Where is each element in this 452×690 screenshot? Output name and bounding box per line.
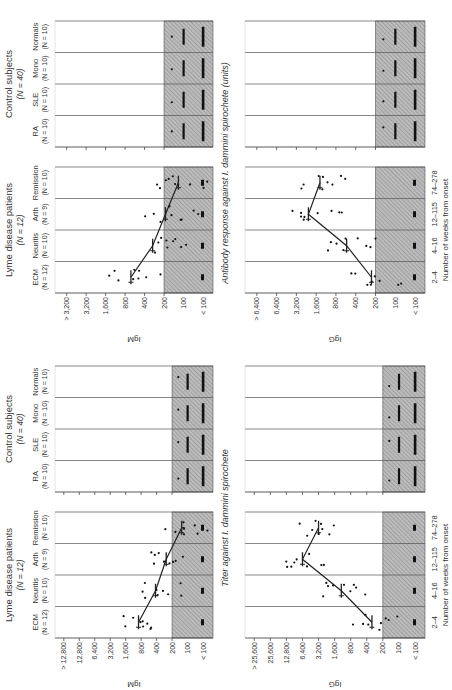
tick-label: 100 (392, 297, 399, 309)
control-cluster (187, 405, 189, 421)
tick-label: < 100 (200, 642, 207, 660)
weeks-label: 2–4 (430, 271, 439, 284)
data-point (352, 623, 354, 625)
data-point (343, 584, 345, 586)
data-point (306, 565, 308, 567)
data-point (144, 582, 146, 584)
data-point (164, 528, 166, 530)
control-cluster (202, 90, 205, 110)
column-header: Normals (31, 23, 40, 51)
tick-label: 3,200 (107, 642, 114, 660)
group-title-control: Control subjects (3, 395, 14, 463)
tick-label: 6,400 (91, 642, 98, 660)
data-point (308, 553, 310, 555)
data-point (159, 273, 161, 275)
data-point (400, 282, 402, 284)
control-cluster (202, 27, 205, 47)
data-point (382, 70, 384, 72)
data-point (171, 101, 173, 103)
data-point (349, 590, 351, 592)
data-point (113, 270, 115, 272)
column-header: SLE (31, 93, 40, 107)
data-point (350, 272, 352, 274)
column-n: (N = 10) (41, 87, 49, 112)
data-point (157, 241, 159, 243)
below-100-cluster (413, 243, 416, 249)
data-point (160, 237, 162, 239)
group-title-lyme: Lyme disease patients (3, 528, 14, 622)
data-point (333, 524, 335, 526)
control-cluster (187, 437, 189, 453)
data-point (168, 205, 170, 207)
data-point (175, 560, 177, 562)
panel-ylabel: IgG (329, 335, 342, 344)
data-point (388, 479, 390, 481)
data-point (174, 531, 176, 533)
column-header: Normals (31, 368, 40, 396)
data-point (364, 614, 366, 616)
data-point (206, 181, 208, 183)
control-cluster (398, 437, 400, 453)
below-100-cluster (201, 211, 204, 217)
data-point (156, 183, 158, 185)
group-n-control: (N = 40) (15, 68, 25, 99)
tick-label: > 6,400 (253, 297, 260, 321)
tick-label: 12,800 (76, 642, 83, 664)
data-point (194, 524, 196, 526)
data-point (364, 593, 366, 595)
data-point (157, 594, 159, 596)
tick-label: 400 (363, 642, 370, 654)
column-n: (N = 10) (41, 24, 49, 49)
below-100-cluster (201, 274, 204, 280)
weeks-label: 4–16 (430, 582, 439, 599)
tick-label: 200 (379, 642, 386, 654)
rotated-figure: Titer against I. dammini spirocheteLyme … (0, 0, 452, 690)
below-100-cluster (413, 619, 416, 625)
column-header: Neuritis (31, 233, 40, 259)
data-point (177, 409, 179, 411)
column-header: RA (31, 471, 40, 481)
control-cluster (414, 58, 417, 78)
data-point (132, 278, 134, 280)
data-point (285, 560, 287, 562)
tick-label: 1,600 (313, 297, 320, 315)
data-point (322, 176, 324, 178)
data-point (117, 279, 119, 281)
column-header: Remission (31, 510, 40, 545)
below-100-cluster (201, 525, 204, 531)
panel-ylabel: IgM (127, 335, 141, 344)
data-point (154, 251, 156, 253)
weeks-label: 12–115 (430, 202, 439, 226)
data-point (332, 584, 334, 586)
data-point (340, 175, 342, 177)
data-point (150, 551, 152, 553)
data-point (311, 529, 313, 531)
data-point (341, 211, 343, 213)
tick-label: 100 (395, 642, 402, 654)
data-point (180, 246, 182, 248)
column-n: (N = 10) (41, 515, 49, 540)
data-point (165, 239, 167, 241)
data-point (185, 244, 187, 246)
data-point (181, 218, 183, 220)
data-point (167, 593, 169, 595)
column-n: (N = 10) (41, 432, 49, 457)
panel-igg: IgG< 1001002004008001,6003,2006,40012,80… (245, 366, 425, 689)
column-n: (N = 10) (41, 119, 49, 144)
tick-label: 400 (352, 297, 359, 309)
data-point (154, 554, 156, 556)
data-point (303, 219, 305, 221)
data-point (378, 280, 380, 282)
data-point (177, 441, 179, 443)
group-n-lyme: (N = 12) (15, 559, 25, 590)
data-point (354, 272, 356, 274)
control-cluster (398, 374, 400, 390)
weeks-label: 2–4 (430, 616, 439, 629)
data-point (162, 590, 164, 592)
column-header: RA (31, 126, 40, 136)
data-point (331, 184, 333, 186)
tick-label: 25,600 (267, 642, 274, 664)
column-header: Arth (31, 207, 40, 221)
group-title-control: Control subjects (3, 50, 14, 118)
data-point (366, 284, 368, 286)
